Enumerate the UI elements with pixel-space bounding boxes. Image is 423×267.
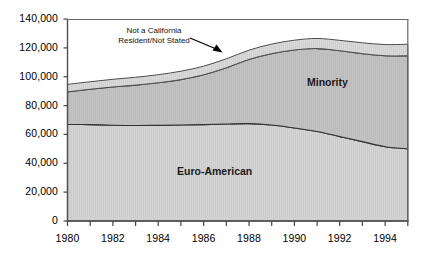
y-axis-tick-label: 140,000	[0, 12, 58, 24]
x-axis-tick-label: 1992	[315, 232, 365, 244]
x-axis-tick-label: 1980	[43, 232, 93, 244]
x-axis-tick-label: 1994	[360, 232, 410, 244]
y-axis-tick-label: 40,000	[0, 156, 58, 168]
x-axis-ticks	[68, 221, 408, 226]
annotation-line-2: Resident/Not Stated	[94, 36, 214, 46]
not-a-california-resident-annotation: Not a California Resident/Not Stated	[94, 26, 214, 46]
x-axis-tick-label: 1986	[179, 232, 229, 244]
x-axis-tick-label: 1988	[224, 232, 274, 244]
y-axis-tick-label: 0	[0, 214, 58, 226]
minority-label: Minority	[307, 76, 348, 88]
annotation-line-1: Not a California	[94, 26, 214, 36]
x-axis-tick-label: 1990	[269, 232, 319, 244]
y-axis-tick-label: 20,000	[0, 185, 58, 197]
y-axis-tick-label: 60,000	[0, 127, 58, 139]
euro-american-label: Euro-American	[177, 165, 252, 177]
x-axis-tick-label: 1982	[88, 232, 138, 244]
y-axis-tick-label: 100,000	[0, 70, 58, 82]
y-axis-tick-label: 120,000	[0, 41, 58, 53]
stacked-area-chart: 020,00040,00060,00080,000100,000120,0001…	[0, 0, 423, 267]
x-axis-tick-label: 1984	[133, 232, 183, 244]
y-axis-tick-label: 80,000	[0, 99, 58, 111]
